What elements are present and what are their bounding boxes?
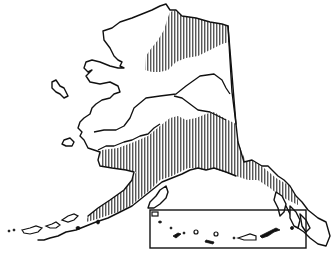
canada-border: [228, 26, 236, 124]
alaska-map: [0, 0, 334, 260]
aleutian-inset-box: [150, 210, 306, 248]
northern-hatched-region: [145, 10, 229, 72]
st-lawrence-island: [52, 80, 68, 98]
kodiak-island: [148, 186, 168, 208]
inset-islands: [152, 212, 294, 244]
nunivak-island: [62, 138, 74, 146]
aleutian-islands: [8, 214, 100, 234]
